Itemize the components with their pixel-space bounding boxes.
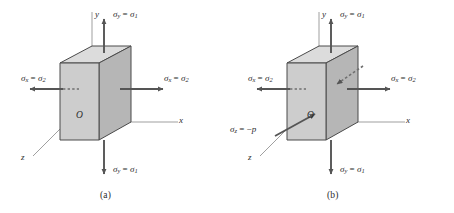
figure-root: y x z O σy = σ1 σy = σ1 σx = σ2 σx = σ2 … [0,0,454,213]
cube-front-face-b [287,63,326,140]
sigma-2-subscript: 2 [185,76,188,83]
axis-label-y-b: y [322,9,326,19]
equals-glyph: = [174,73,179,83]
sigma-x-subscript: x [25,76,28,83]
label-sigma-x-right-a: σx = σ2 [164,73,189,83]
stress-element-diagram-b [227,0,454,213]
equals-glyph: = [401,73,406,83]
sigma-y-subscript: y [344,167,347,174]
sigma-1-subscript: 1 [361,167,364,174]
equals-glyph: = [123,164,128,174]
cube-b [287,46,358,140]
axis-label-z-b: z [248,152,252,162]
axis-label-x-a: x [179,115,183,125]
axis-label-z-a: z [21,152,25,162]
sigma-2-subscript: 2 [42,76,45,83]
sigma-2-subscript: 2 [412,76,415,83]
label-sigma-x-left-b: σx = σ2 [248,73,273,83]
cube-right-face-a [99,46,131,140]
panel-b: y x z O σy = σ1 σy = σ1 σx = σ2 σx = σ2 … [227,0,454,213]
equals-glyph: = [123,9,128,19]
equals-glyph: = [350,164,355,174]
equals-glyph: = [239,124,244,134]
axis-label-y-a: y [95,9,99,19]
origin-label-b: O [307,110,314,120]
cube-right-face-b [326,46,358,140]
sigma-z-subscript: z [234,127,237,134]
p-glyph: p [252,124,257,134]
panel-a: y x z O σy = σ1 σy = σ1 σx = σ2 σx = σ2 … [0,0,227,213]
panel-caption-b: (b) [327,190,339,200]
label-sigma-y-bottom-a: σy = σ1 [113,164,138,174]
sigma-x-subscript: x [252,76,255,83]
label-sigma-y-top-b: σy = σ1 [340,9,365,19]
panel-caption-a: (a) [100,190,111,200]
equals-glyph: = [31,73,36,83]
sigma-x-subscript: x [168,76,171,83]
label-sigma-z-b: σz = −p [230,124,256,134]
sigma-1-subscript: 1 [134,12,137,19]
label-sigma-y-bottom-b: σy = σ1 [340,164,365,174]
equals-glyph: = [258,73,263,83]
label-sigma-x-left-a: σx = σ2 [21,73,46,83]
sigma-y-subscript: y [344,12,347,19]
sigma-1-subscript: 1 [134,167,137,174]
sigma-y-subscript: y [117,167,120,174]
axis-label-x-b: x [406,115,410,125]
label-sigma-x-right-b: σx = σ2 [391,73,416,83]
stress-element-diagram-a [0,0,227,213]
sigma-y-subscript: y [117,12,120,19]
cube-front-face-a [60,63,99,140]
sigma-2-subscript: 2 [269,76,272,83]
cube-a [60,46,131,140]
origin-label-a: O [76,110,83,120]
sigma-x-subscript: x [395,76,398,83]
equals-glyph: = [350,9,355,19]
sigma-1-subscript: 1 [361,12,364,19]
label-sigma-y-top-a: σy = σ1 [113,9,138,19]
